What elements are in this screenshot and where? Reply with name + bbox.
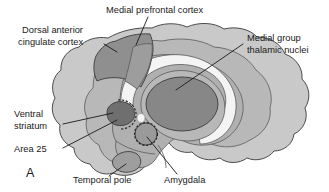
label-amygdala: Amygdala [164,175,206,185]
label-medial-prefrontal-cortex: Medial prefrontal cortex [106,5,203,15]
label-medial-group-thalamic-nuclei-line2: thalamic nuclei [247,45,309,55]
panel-letter: A [26,166,35,180]
brain-anatomy-figure: Medial prefrontal cortex Dorsal anterior… [0,0,329,192]
label-dorsal-anterior-cingulate-cortex-line2: cingulate cortex [18,37,83,47]
label-dorsal-anterior-cingulate-cortex-line1: Dorsal anterior [22,25,83,35]
brain-diagram-canvas: Medial prefrontal cortex Dorsal anterior… [0,0,329,192]
label-ventral-striatum-line2: striatum [14,121,47,131]
label-area-25: Area 25 [14,144,47,154]
label-temporal-pole: Temporal pole [73,175,131,185]
label-medial-group-thalamic-nuclei-line1: Medial group [247,33,301,43]
label-ventral-striatum-line1: Ventral [14,109,43,119]
medial-group-thalamic-nuclei-region [146,77,218,131]
septal-gap [137,114,145,123]
amygdala-region [135,123,157,145]
